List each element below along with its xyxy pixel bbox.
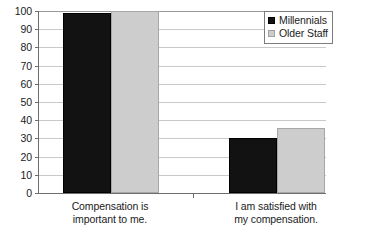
bar-millennials-group-1 [63,13,111,193]
y-axis-tick-mark [35,193,39,194]
x-axis-category-label-2: I am satisfied withmy compensation. [206,200,346,225]
legend-item-older-staff: Older Staff [268,27,328,40]
y-axis-tick-label: 10 [2,170,32,180]
y-axis-tick-labels: 0102030405060708090100 [0,0,32,200]
category-label-line2: my compensation. [206,213,346,226]
bar-millennials-group-2 [229,138,277,193]
y-axis-tick-label: 50 [2,97,32,107]
y-axis-tick-label: 30 [2,133,32,143]
y-axis-tick-label: 100 [2,6,32,16]
y-axis-tick-label: 40 [2,115,32,125]
bar-chart: 0102030405060708090100 Compensation isim… [0,0,365,233]
y-axis-tick-label: 70 [2,61,32,71]
category-label-line1: I am satisfied with [235,200,317,212]
y-axis-tick-label: 80 [2,42,32,52]
category-label-line1: Compensation is [72,200,149,212]
y-axis-tick-label: 0 [2,188,32,198]
chart-legend: Millennials Older Staff [264,11,333,44]
y-axis-tick-label: 20 [2,152,32,162]
y-axis-tick-label: 90 [2,24,32,34]
legend-label-older-staff: Older Staff [279,28,328,39]
legend-swatch-icon-older-staff [268,30,275,37]
bar-older-staff-group-1 [111,11,159,193]
legend-item-millennials: Millennials [268,14,328,27]
y-axis-tick-label: 60 [2,79,32,89]
legend-swatch-icon-millennials [268,17,275,24]
bar-older-staff-group-2 [277,128,325,193]
category-label-line2: important to me. [40,213,180,226]
legend-label-millennials: Millennials [279,15,327,26]
category-divider-tick [193,193,194,198]
x-axis-category-label-1: Compensation isimportant to me. [40,200,180,225]
